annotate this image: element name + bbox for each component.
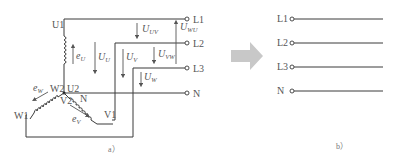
terminal-label-n: N [193, 88, 200, 99]
b-terminal-l3 [290, 65, 294, 69]
b-terminal-n [290, 89, 294, 93]
label-uw: UW [144, 71, 157, 83]
terminal-l2 [185, 41, 189, 45]
label-ew: eW [33, 82, 43, 94]
transition-arrow-icon [231, 42, 263, 70]
b-terminal-label-l2: L2 [277, 37, 288, 48]
label-u1: U1 [52, 19, 64, 30]
label-n-point: N [80, 93, 87, 104]
label-eu: eU [76, 50, 86, 62]
diagram-a: L1 L2 L3 N U1 U2 W2 W1 V2 V1 N eU [14, 14, 204, 154]
terminal-label-l2: L2 [193, 38, 204, 49]
b-terminal-label-l3: L3 [277, 61, 288, 72]
terminal-label-l3: L3 [193, 63, 204, 74]
label-v1: V1 [104, 109, 116, 120]
diagram-b: L1 L2 L3 N b） [277, 13, 383, 151]
label-u2: U2 [67, 83, 79, 94]
terminal-n [185, 91, 189, 95]
terminal-l3 [185, 66, 189, 70]
b-terminal-l2 [290, 41, 294, 45]
label-w2: W2 [50, 83, 64, 94]
b-terminal-label-l1: L1 [277, 13, 288, 24]
coil-w [30, 93, 64, 119]
label-uuv: UUV [142, 23, 159, 35]
coil-u [64, 36, 66, 64]
label-ev: eV [72, 113, 81, 125]
b-terminal-l1 [290, 17, 294, 21]
b-terminal-label-n: N [277, 85, 284, 96]
caption-a: a） [108, 145, 120, 154]
label-uvw: UVW [158, 48, 175, 60]
label-uv: UV [126, 51, 138, 63]
label-v2: V2 [60, 95, 72, 106]
three-phase-star-connection-diagram: L1 L2 L3 N U1 U2 W2 W1 V2 V1 N eU [0, 0, 393, 165]
terminal-label-l1: L1 [193, 14, 204, 25]
wire-l3 [26, 68, 185, 137]
label-w1: W1 [14, 110, 28, 121]
label-uu: UU [98, 51, 111, 63]
wire-l1 [64, 19, 185, 21]
caption-b: b） [336, 142, 348, 151]
